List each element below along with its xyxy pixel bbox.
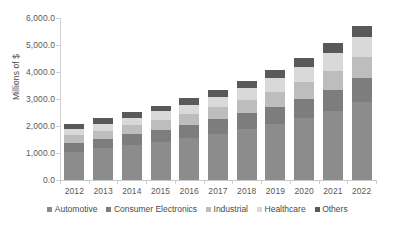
bar-segment: [93, 124, 113, 131]
bar-segment: [294, 99, 314, 118]
bar-segment: [294, 118, 314, 180]
legend-swatch-icon: [257, 207, 262, 212]
bar-segment: [265, 70, 285, 78]
legend-label: Consumer Electronics: [114, 204, 197, 214]
y-axis-tickmark: [56, 153, 60, 154]
bar-segment: [208, 134, 228, 180]
legend-label: Automotive: [55, 204, 98, 214]
bar-stack: [208, 18, 228, 180]
bar-stack: [93, 18, 113, 180]
bar-segment: [151, 130, 171, 142]
bar-segment: [323, 71, 343, 90]
bar-segment: [122, 145, 142, 180]
bar-segment: [323, 43, 343, 53]
bar-segment: [179, 125, 199, 138]
bar-segment: [64, 143, 84, 152]
bar-segment: [64, 135, 84, 143]
y-axis-tick-label: 6,000.0: [26, 13, 55, 23]
bar-segment: [208, 90, 228, 97]
y-axis-tick-label: 1,000.0: [26, 148, 55, 158]
y-axis-tickmark: [56, 126, 60, 127]
bar-segment: [265, 124, 285, 180]
bar-segment: [208, 107, 228, 119]
legend-label: Others: [322, 204, 348, 214]
legend-item[interactable]: Automotive: [47, 204, 97, 214]
y-axis-tickmark: [56, 72, 60, 73]
bar-segment: [179, 105, 199, 114]
bar-segment: [237, 88, 257, 100]
bar-segment: [294, 67, 314, 82]
y-axis-tickmark: [56, 99, 60, 100]
y-axis-tick-label: 4,000.0: [26, 67, 55, 77]
x-axis-tickmark: [117, 180, 118, 184]
bar-segment: [237, 129, 257, 180]
bar-segment: [93, 148, 113, 180]
bar-stack: [64, 18, 84, 180]
bar-segment: [122, 118, 142, 126]
y-axis-tick-label: 5,000.0: [26, 40, 55, 50]
y-axis-tickmark: [56, 18, 60, 19]
bar-segment: [294, 58, 314, 67]
x-axis-tick-label: 2022: [345, 186, 379, 196]
y-axis-tick-label: 2,000.0: [26, 121, 55, 131]
bar-stack: [352, 18, 372, 180]
bar-segment: [323, 111, 343, 180]
x-axis-tickmark: [290, 180, 291, 184]
bar-segment: [323, 90, 343, 111]
bar-segment: [352, 37, 372, 57]
legend-swatch-icon: [106, 207, 111, 212]
legend-item[interactable]: Consumer Electronics: [106, 204, 197, 214]
bar-stack: [237, 18, 257, 180]
bar-segment: [179, 138, 199, 180]
bar-segment: [151, 111, 171, 120]
y-axis-tick-labels: 0.01,000.02,000.03,000.04,000.05,000.06,…: [0, 0, 58, 225]
legend-item[interactable]: Industrial: [206, 204, 248, 214]
bar-segment: [323, 53, 343, 71]
bar-segment: [151, 142, 171, 180]
bar-segment: [179, 114, 199, 125]
bar-segment: [208, 97, 228, 108]
bar-stack: [294, 18, 314, 180]
y-axis-tickmark: [56, 45, 60, 46]
y-axis-tick-label: 0.0: [43, 175, 55, 185]
x-axis-tickmark: [60, 180, 61, 184]
bar-segment: [265, 92, 285, 107]
x-axis-tickmark: [89, 180, 90, 184]
bar-segment: [237, 100, 257, 113]
legend-label: Industrial: [214, 204, 249, 214]
bar-segment: [64, 152, 84, 180]
x-axis-tickmark: [319, 180, 320, 184]
bar-stack: [265, 18, 285, 180]
bar-stack: [179, 18, 199, 180]
bar-segment: [93, 131, 113, 139]
bar-segment: [352, 26, 372, 37]
chart-legend: AutomotiveConsumer ElectronicsIndustrial…: [0, 204, 395, 214]
legend-item[interactable]: Others: [315, 204, 348, 214]
x-axis-tickmark: [347, 180, 348, 184]
bar-segment: [294, 82, 314, 99]
bar-segment: [208, 119, 228, 133]
bar-stack: [122, 18, 142, 180]
bar-segment: [352, 102, 372, 180]
bar-segment: [352, 78, 372, 102]
legend-item[interactable]: Healthcare: [257, 204, 306, 214]
x-axis-tickmark: [232, 180, 233, 184]
x-axis-tickmark: [261, 180, 262, 184]
bar-segment: [151, 120, 171, 130]
bar-segment: [237, 81, 257, 89]
bar-segment: [352, 57, 372, 79]
legend-label: Healthcare: [265, 204, 306, 214]
legend-swatch-icon: [47, 207, 52, 212]
bar-segment: [265, 78, 285, 92]
x-axis-tickmark: [146, 180, 147, 184]
bar-stack: [323, 18, 343, 180]
bar-segment: [265, 107, 285, 124]
bar-stack: [151, 18, 171, 180]
x-axis-tickmark: [204, 180, 205, 184]
bar-segment: [237, 113, 257, 129]
x-axis-line: [60, 180, 376, 181]
x-axis-tickmark: [175, 180, 176, 184]
bar-segment: [122, 134, 142, 145]
bar-segment: [93, 139, 113, 149]
legend-swatch-icon: [206, 207, 211, 212]
